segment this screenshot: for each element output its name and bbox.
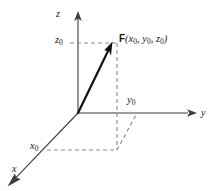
x-axis-line (16, 113, 78, 177)
vector-f-shaft (78, 50, 109, 113)
point-x-subscript: 0 (133, 37, 137, 46)
y-axis-label: y (201, 108, 205, 118)
dashed-y0-guide (117, 113, 137, 150)
z0-tick-label: z0 (55, 35, 63, 46)
vector-f-arrowhead (104, 42, 112, 56)
y-axis-arrowhead (187, 109, 197, 117)
point-close-paren: ) (164, 33, 168, 44)
y0-tick-label: y0 (127, 95, 135, 106)
y0-subscript: 0 (132, 98, 136, 107)
y0-var: y (127, 94, 132, 105)
point-y-subscript: 0 (147, 37, 151, 46)
x0-subscript: 0 (35, 144, 39, 153)
x0-var: x (30, 140, 35, 151)
x0-tick-label: x0 (30, 141, 38, 152)
vector-diagram-figure: z y x z0 y0 x0 F(x0, y0, z0) (0, 0, 220, 191)
diagram-canvas (0, 0, 220, 191)
z0-subscript: 0 (59, 38, 63, 47)
vector-point-label: F(x0, y0, z0) (119, 34, 167, 45)
point-z-subscript: 0 (160, 37, 164, 46)
z-axis-label: z (56, 9, 60, 19)
x-axis-label: x (12, 164, 16, 174)
